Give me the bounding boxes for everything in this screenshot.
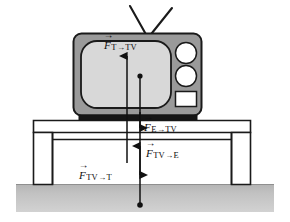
force-label-tv-e: FTV→E: [146, 148, 179, 160]
force-symbol-t-tv: F: [104, 39, 111, 51]
tv-panel: [176, 92, 197, 107]
television: [74, 6, 202, 120]
force-label-e-tv: FE→TV: [144, 122, 177, 134]
table: [34, 121, 251, 185]
tv-knob-upper: [176, 43, 197, 64]
tv-knob-lower: [176, 66, 197, 87]
force-subscript-tv-e: TV→E: [153, 150, 179, 160]
diagram-canvas: [0, 0, 290, 222]
force-subscript-e-tv: E→TV: [151, 124, 177, 134]
force-symbol-e-tv: F: [144, 121, 151, 133]
tv-base: [79, 115, 197, 120]
force-symbol-tv-t: F: [79, 169, 86, 181]
earth-center-dot: [137, 202, 143, 208]
force-subscript-tv-t: TV→T: [86, 172, 112, 182]
force-subscript-t-tv: T→TV: [111, 42, 137, 52]
force-pair-diagram: FT→TV FE→TV FTV→E FTV→T: [0, 0, 290, 222]
force-symbol-tv-e: F: [146, 147, 153, 159]
force-label-tv-t: FTV→T: [79, 170, 112, 182]
force-label-t-tv: FT→TV: [104, 40, 137, 52]
ground: [16, 184, 274, 212]
